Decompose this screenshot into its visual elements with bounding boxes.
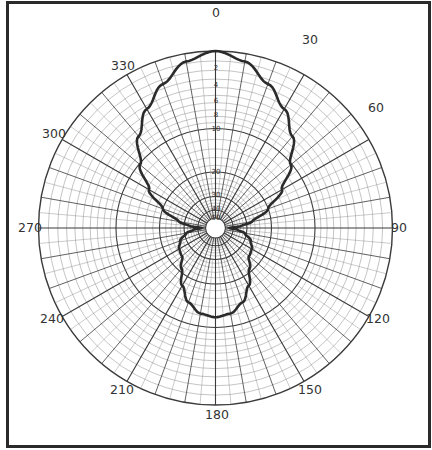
radial-gridline <box>102 236 209 364</box>
radial-gridline <box>141 68 203 200</box>
angle-label-120: 120 <box>366 311 390 326</box>
angle-label-150: 150 <box>298 382 322 397</box>
db-label-30: 30 <box>212 191 221 199</box>
radial-gridline <box>45 236 186 274</box>
angle-label-90: 90 <box>391 220 407 235</box>
radial-gridline <box>222 236 329 364</box>
polar-chart: 0 30 60 90 120 150 180 210 240 270 300 3… <box>0 0 432 450</box>
radial-gridline <box>170 258 208 399</box>
db-label-2: 2 <box>214 64 218 72</box>
angle-label-270: 270 <box>18 220 42 235</box>
radial-gridline <box>45 182 186 220</box>
radial-gridline <box>170 57 208 198</box>
radial-gridline <box>244 241 376 303</box>
angle-label-300: 300 <box>42 126 66 141</box>
angle-label-0: 0 <box>212 5 220 20</box>
angle-label-210: 210 <box>110 382 134 397</box>
angle-label-60: 60 <box>368 100 384 115</box>
radial-gridline <box>238 250 341 353</box>
radial-gridline <box>229 68 291 200</box>
radial-gridline <box>141 257 203 389</box>
db-label-50: 50 <box>212 214 221 222</box>
radial-gridline <box>223 234 351 341</box>
db-label-20: 20 <box>212 168 221 176</box>
angle-label-180: 180 <box>205 407 229 422</box>
db-label-40: 40 <box>212 205 221 213</box>
radial-gridline <box>224 57 262 198</box>
radial-gridline <box>80 114 208 221</box>
radial-gridline <box>223 114 351 221</box>
radial-gridline <box>55 153 187 215</box>
db-label-8: 8 <box>214 111 218 119</box>
radial-gridline <box>246 236 387 274</box>
radial-gridline <box>55 241 187 303</box>
angle-label-330: 330 <box>111 58 135 73</box>
radial-gridline <box>224 258 262 399</box>
db-label-6: 6 <box>214 97 219 105</box>
radial-gridline <box>80 234 208 341</box>
db-label-4: 4 <box>214 81 219 89</box>
db-label-10: 10 <box>212 125 221 133</box>
angle-label-240: 240 <box>40 311 64 326</box>
radial-gridline <box>229 257 291 389</box>
radial-gridline <box>90 250 193 353</box>
radial-gridline <box>244 153 376 215</box>
radial-gridline <box>246 182 387 220</box>
angle-label-30: 30 <box>302 32 318 47</box>
